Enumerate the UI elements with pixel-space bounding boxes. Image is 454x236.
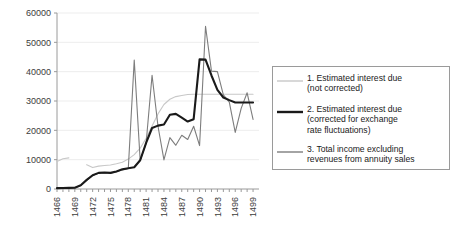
legend-swatch-series-2 — [273, 104, 307, 115]
y-tick-label: 10000 — [26, 155, 51, 165]
series-line-2 — [57, 59, 253, 188]
legend-swatch-series-3 — [273, 144, 307, 155]
legend-item-2[interactable]: 2. Estimated interest due (corrected for… — [273, 104, 451, 135]
chart-legend: 1. Estimated interest due (not corrected… — [272, 66, 450, 170]
y-tick-label: 30000 — [26, 96, 51, 106]
x-tick-label: 1493 — [213, 197, 223, 217]
x-tick-label: 1496 — [230, 197, 240, 217]
chart-container: 0100002000030000400005000060000146614691… — [0, 0, 454, 236]
legend-label-1-line1: 1. Estimated interest due — [307, 73, 402, 83]
x-tick-label: 1469 — [70, 197, 80, 217]
legend-label-2-line1: 2. Estimated interest due — [307, 104, 402, 114]
x-tick-label: 1490 — [195, 197, 205, 217]
legend-label-3-line1: 3. Total income excluding — [307, 144, 403, 154]
x-tick-label: 1472 — [88, 197, 98, 217]
x-tick-label: 1484 — [159, 197, 169, 217]
x-tick-label: 1499 — [248, 197, 258, 217]
series-line-3 — [57, 26, 253, 188]
legend-label-3-line2: revenues from annuity sales — [307, 154, 414, 164]
legend-label-3: 3. Total income excluding revenues from … — [307, 144, 417, 165]
legend-label-2-line2: (corrected for exchange — [307, 114, 398, 124]
x-tick-label: 1481 — [141, 197, 151, 217]
legend-label-2-line3: rate fluctuations) — [307, 125, 371, 135]
x-tick-label: 1478 — [123, 197, 133, 217]
y-tick-label: 0 — [46, 184, 51, 194]
legend-label-1-line2: (not corrected) — [307, 83, 363, 93]
y-tick-label: 40000 — [26, 67, 51, 77]
y-tick-label: 50000 — [26, 38, 51, 48]
legend-item-1[interactable]: 1. Estimated interest due (not corrected… — [273, 73, 451, 94]
legend-swatch-series-1 — [273, 73, 307, 84]
x-tick-label: 1475 — [106, 197, 116, 217]
legend-label-2: 2. Estimated interest due (corrected for… — [307, 104, 405, 135]
y-tick-label: 20000 — [26, 126, 51, 136]
x-tick-label: 1466 — [52, 197, 62, 217]
x-tick-label: 1487 — [177, 197, 187, 217]
y-tick-label: 60000 — [26, 8, 51, 18]
legend-label-1: 1. Estimated interest due (not corrected… — [307, 73, 405, 94]
legend-item-3[interactable]: 3. Total income excluding revenues from … — [273, 144, 451, 165]
